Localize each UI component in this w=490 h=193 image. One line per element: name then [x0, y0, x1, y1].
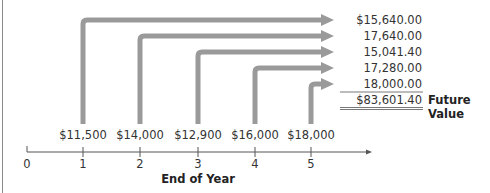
compound-arrow-3 [198, 52, 322, 124]
future-value-4: 17,280.00 [332, 61, 422, 75]
future-value-total: $83,601.40 [332, 93, 422, 107]
cash-flow-4: $16,000 [231, 128, 279, 142]
tick-label-1: 1 [79, 157, 86, 171]
axis-arrowhead-icon [366, 150, 372, 155]
future-value-1: $15,640.00 [332, 13, 422, 27]
cash-flow-5: $18,000 [287, 128, 335, 142]
cash-flow-2: $14,000 [116, 128, 164, 142]
axis-title: End of Year [161, 172, 235, 186]
tick-label-2: 2 [136, 157, 143, 171]
future-value-5: 18,000.00 [332, 77, 422, 91]
cash-flow-3: $12,900 [174, 128, 222, 142]
tick-label-5: 5 [307, 157, 314, 171]
compound-arrow-2 [140, 36, 322, 124]
compound-arrow-5 [311, 84, 322, 124]
tick-label-0: 0 [23, 157, 30, 171]
future-value-2: 17,640.00 [332, 29, 422, 43]
cash-flow-1: $11,500 [59, 128, 107, 142]
future-value-label: Future Value [428, 93, 490, 121]
future-value-3: 15,041.40 [332, 45, 422, 59]
tick-label-3: 3 [194, 157, 201, 171]
tick-label-4: 4 [251, 157, 258, 171]
